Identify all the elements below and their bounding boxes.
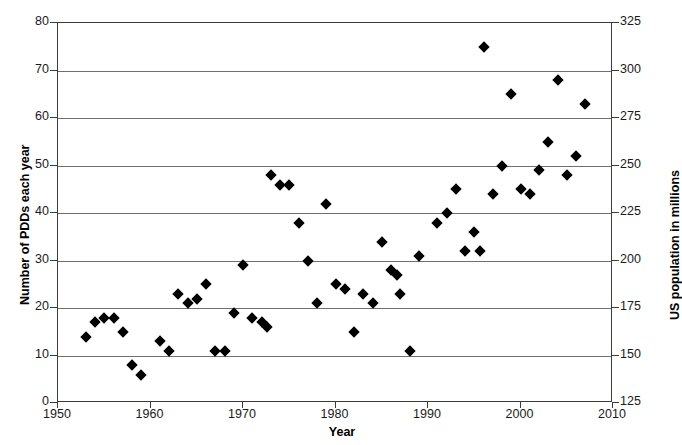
- y-left-tick-60: 60: [3, 110, 49, 123]
- data-point: [561, 169, 572, 180]
- gridline-y-30: [58, 261, 611, 262]
- gridline-y-50: [58, 166, 611, 167]
- x-tick-1990: 1990: [397, 408, 457, 421]
- x-tick-1970: 1970: [212, 408, 272, 421]
- y-right-tickmark-200: [612, 260, 619, 261]
- data-point: [496, 160, 507, 171]
- y-right-tick-300: 300: [620, 63, 641, 76]
- x-tick-2000: 2000: [490, 408, 550, 421]
- y-right-tickmark-250: [612, 165, 619, 166]
- gridline-y-70: [58, 71, 611, 72]
- y-right-tickmark-325: [612, 22, 619, 23]
- data-point: [432, 217, 443, 228]
- y-right-tickmark-150: [612, 355, 619, 356]
- y-right-tickmark-300: [612, 70, 619, 71]
- data-point: [376, 236, 387, 247]
- data-point: [348, 326, 359, 337]
- y-left-tickmark-30: [50, 260, 57, 261]
- data-point: [395, 288, 406, 299]
- data-point: [339, 283, 350, 294]
- data-point: [552, 74, 563, 85]
- data-point: [524, 188, 535, 199]
- y-right-tick-150: 150: [620, 348, 641, 361]
- y-left-tickmark-40: [50, 212, 57, 213]
- y-left-tickmark-80: [50, 22, 57, 23]
- y-left-tick-70: 70: [3, 63, 49, 76]
- data-point: [506, 89, 517, 100]
- y-axis-right-title: US population in millions: [668, 170, 682, 320]
- data-point: [469, 226, 480, 237]
- data-point: [474, 245, 485, 256]
- data-point: [570, 150, 581, 161]
- y-left-tickmark-10: [50, 355, 57, 356]
- plot-area: [57, 22, 612, 402]
- data-point: [80, 331, 91, 342]
- y-left-tickmark-50: [50, 165, 57, 166]
- y-left-tick-10: 10: [3, 348, 49, 361]
- gridline-y-40: [58, 213, 611, 214]
- y-right-tickmark-175: [612, 307, 619, 308]
- y-right-tick-250: 250: [620, 158, 641, 171]
- y-right-tick-200: 200: [620, 253, 641, 266]
- x-tick-2010: 2010: [582, 408, 642, 421]
- y-left-tickmark-0: [50, 402, 57, 403]
- gridline-y-60: [58, 118, 611, 119]
- y-right-tick-125: 125: [620, 395, 641, 408]
- data-point: [173, 288, 184, 299]
- data-point: [265, 169, 276, 180]
- y-left-tick-0: 0: [3, 395, 49, 408]
- y-left-tick-80: 80: [3, 15, 49, 28]
- gridline-y-10: [58, 356, 611, 357]
- data-point: [117, 326, 128, 337]
- y-left-tickmark-70: [50, 70, 57, 71]
- y-right-tick-225: 225: [620, 205, 641, 218]
- data-point: [108, 312, 119, 323]
- data-point: [284, 179, 295, 190]
- data-point: [450, 184, 461, 195]
- gridline-y-20: [58, 308, 611, 309]
- data-point: [543, 136, 554, 147]
- x-tick-1960: 1960: [120, 408, 180, 421]
- data-point: [441, 207, 452, 218]
- x-tick-1980: 1980: [305, 408, 365, 421]
- data-point: [126, 359, 137, 370]
- data-point: [154, 336, 165, 347]
- y-right-tickmark-225: [612, 212, 619, 213]
- data-point: [302, 255, 313, 266]
- y-right-tick-275: 275: [620, 110, 641, 123]
- data-point: [478, 41, 489, 52]
- x-axis-title: Year: [0, 425, 678, 439]
- y-right-tick-175: 175: [620, 300, 641, 313]
- data-point: [487, 188, 498, 199]
- y-axis-left-title: Number of PDDs each year: [18, 145, 32, 305]
- data-point: [136, 369, 147, 380]
- data-point: [459, 245, 470, 256]
- y-left-tickmark-20: [50, 307, 57, 308]
- y-left-tickmark-60: [50, 117, 57, 118]
- y-right-tick-325: 325: [620, 15, 641, 28]
- data-point: [293, 217, 304, 228]
- y-right-tickmark-275: [612, 117, 619, 118]
- x-tick-1950: 1950: [27, 408, 87, 421]
- data-point: [321, 198, 332, 209]
- data-point: [358, 288, 369, 299]
- data-point: [200, 279, 211, 290]
- data-point: [580, 98, 591, 109]
